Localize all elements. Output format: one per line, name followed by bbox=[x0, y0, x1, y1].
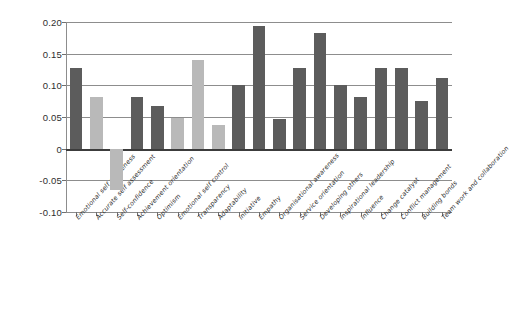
bar bbox=[110, 149, 123, 190]
bar bbox=[293, 68, 306, 149]
bar bbox=[415, 101, 428, 149]
y-tick-label: -0.05 bbox=[39, 175, 62, 186]
bar bbox=[70, 68, 83, 149]
bar bbox=[436, 78, 449, 149]
bar bbox=[314, 33, 327, 148]
y-tick-label: -0.10 bbox=[39, 207, 62, 218]
bar bbox=[253, 26, 266, 149]
y-tick-label: 0.20 bbox=[43, 17, 62, 28]
gridline bbox=[66, 22, 452, 23]
bar bbox=[334, 85, 347, 148]
y-tick-label: 0.05 bbox=[43, 112, 62, 123]
bar bbox=[354, 97, 367, 149]
bar bbox=[131, 97, 144, 149]
bar bbox=[395, 68, 408, 149]
bar bbox=[232, 85, 245, 148]
bar bbox=[151, 106, 164, 149]
bar bbox=[171, 118, 184, 149]
bar bbox=[90, 97, 103, 149]
bar bbox=[212, 125, 225, 149]
y-axis: 0.200.150.100.050-0.05-0.10 bbox=[0, 0, 62, 310]
bar bbox=[273, 119, 286, 149]
bar bbox=[192, 60, 205, 149]
zero-line bbox=[66, 149, 452, 151]
bar bbox=[375, 68, 388, 149]
y-tick-label: 0.15 bbox=[43, 48, 62, 59]
y-tick-label: 0.10 bbox=[43, 80, 62, 91]
